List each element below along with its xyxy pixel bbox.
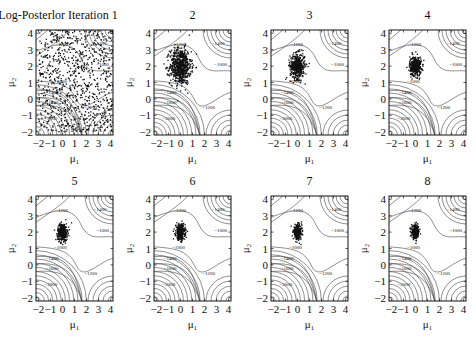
y-tick-label: 1 — [146, 77, 152, 89]
x-tick-label: 2 — [319, 303, 325, 315]
y-tick-label: 4 — [28, 27, 34, 39]
y-tick-label: −1 — [139, 275, 151, 287]
y-tick-label: 2 — [28, 60, 34, 72]
y-tick-label: 0 — [263, 93, 269, 105]
y-axis-label: μ₂ — [4, 243, 16, 253]
contour-label: −2000 — [397, 282, 410, 287]
contour-label: −1400 — [281, 256, 294, 261]
y-tick-label: 0 — [28, 93, 34, 105]
x-axis-label: μ₁ — [188, 152, 198, 164]
contour-label: −1000 — [331, 62, 344, 67]
x-tick-label: 3 — [214, 137, 220, 149]
y-tick-label: 1 — [28, 243, 34, 255]
subplot-title: 4 — [425, 8, 431, 22]
contour-label: −1400 — [212, 207, 225, 212]
y-tick-label: 3 — [263, 210, 269, 222]
y-tick-label: −2 — [256, 126, 268, 138]
y-tick-label: 3 — [28, 44, 34, 56]
y-tick-label: −2 — [21, 126, 33, 138]
contour-label: −1200 — [319, 105, 332, 110]
contour-label: −1600 — [281, 100, 294, 105]
x-tick-label: −2 — [33, 303, 45, 315]
y-tick-label: 0 — [381, 93, 387, 105]
y-tick-label: −2 — [21, 292, 33, 304]
contour-label: −1600 — [399, 266, 412, 271]
y-tick-label: 1 — [28, 77, 34, 89]
x-tick-label: 0 — [178, 303, 184, 315]
contour-label: −1000 — [289, 245, 302, 250]
x-tick-label: −1 — [45, 303, 57, 315]
contour-label: −1200 — [290, 208, 303, 213]
x-tick-label: 3 — [449, 303, 455, 315]
contour-label: −1600 — [164, 266, 177, 271]
y-axis-label: μ₂ — [122, 77, 134, 87]
y-axis-label: μ₂ — [357, 243, 369, 253]
y-tick-label: 1 — [381, 243, 387, 255]
x-tick-label: 0 — [413, 137, 419, 149]
contour-label: −1600 — [399, 100, 412, 105]
y-tick-label: 3 — [146, 44, 152, 56]
contour-label: −2000 — [44, 282, 57, 287]
contour-label: −2000 — [162, 282, 175, 287]
x-tick-label: 2 — [84, 137, 90, 149]
x-tick-label: 1 — [72, 137, 78, 149]
x-tick-label: 0 — [295, 137, 301, 149]
sample-points — [406, 51, 424, 79]
x-tick-label: 4 — [108, 303, 114, 315]
y-axis-label: μ₂ — [239, 243, 251, 253]
contour-label: −1400 — [46, 256, 59, 261]
y-axis-label: μ₂ — [122, 243, 134, 253]
x-axis-label: μ₁ — [423, 318, 433, 330]
y-tick-label: 3 — [381, 44, 387, 56]
x-tick-label: −1 — [45, 137, 57, 149]
contour-label: −1200 — [202, 271, 215, 276]
contour-label: −1400 — [447, 41, 460, 46]
contour-label: −1600 — [164, 100, 177, 105]
y-tick-label: 0 — [263, 259, 269, 271]
y-tick-label: −1 — [21, 109, 33, 121]
x-tick-label: −1 — [280, 137, 292, 149]
contour-label: −1400 — [281, 90, 294, 95]
y-tick-label: 3 — [146, 210, 152, 222]
sample-points — [291, 221, 304, 245]
subplot-4: −1200−1400−1000−1000−1400−1600−1200−2000… — [357, 8, 467, 164]
y-tick-label: 0 — [146, 259, 152, 271]
subplot-8: −1200−1400−1000−1000−1400−1600−1200−2000… — [357, 174, 467, 330]
y-axis-label: μ₂ — [239, 77, 251, 87]
y-tick-label: −2 — [374, 126, 386, 138]
x-tick-label: 1 — [190, 137, 196, 149]
x-tick-label: −2 — [386, 303, 398, 315]
subplot-1: −1200−1400−1000−1000−1400−1600−1200−2000… — [0, 8, 118, 164]
y-tick-label: 2 — [381, 226, 387, 238]
x-tick-label: 2 — [84, 303, 90, 315]
x-tick-label: 2 — [202, 303, 208, 315]
subplot-title: 7 — [307, 174, 313, 188]
x-axis-label: μ₁ — [305, 152, 315, 164]
x-tick-label: 1 — [307, 137, 313, 149]
y-tick-label: −2 — [256, 292, 268, 304]
y-tick-label: 1 — [381, 77, 387, 89]
contour-label: −1400 — [94, 207, 107, 212]
y-tick-label: 4 — [263, 27, 269, 39]
x-tick-label: −1 — [163, 303, 175, 315]
contour-label: −1000 — [449, 228, 462, 233]
contour-label: −1000 — [214, 62, 227, 67]
x-axis-label: μ₁ — [70, 318, 80, 330]
x-tick-label: −1 — [163, 137, 175, 149]
contour-label: −1200 — [437, 105, 450, 110]
contour-label: −1000 — [172, 245, 185, 250]
subplot-title: 8 — [425, 174, 431, 188]
x-axis-label: μ₁ — [305, 318, 315, 330]
contour-label: −2000 — [44, 116, 57, 121]
contour-label: −1200 — [84, 271, 97, 276]
x-tick-label: 4 — [461, 137, 467, 149]
y-tick-label: −1 — [374, 275, 386, 287]
x-tick-label: 0 — [413, 303, 419, 315]
y-axis-label: μ₂ — [4, 77, 16, 87]
x-axis-label: μ₁ — [188, 318, 198, 330]
x-tick-label: −2 — [386, 137, 398, 149]
contour-label: −1000 — [449, 62, 462, 67]
y-tick-label: 4 — [28, 193, 34, 205]
contour-label: −1400 — [164, 256, 177, 261]
sample-points — [54, 219, 72, 245]
